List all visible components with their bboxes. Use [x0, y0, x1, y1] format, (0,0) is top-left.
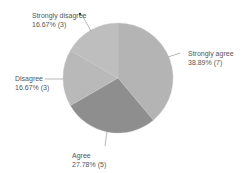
label-name: Agree — [72, 151, 106, 160]
label-name: Strongly agree — [188, 49, 234, 58]
leader-line-agree — [105, 131, 107, 146]
label-value: 16.67% (3) — [15, 83, 49, 92]
label-name: Disagree — [15, 74, 49, 83]
label-agree: Agree 27.78% (5) — [72, 151, 106, 169]
label-value: 27.78% (5) — [72, 160, 106, 169]
label-strongly-agree: Strongly agree 38.89% (7) — [188, 49, 234, 67]
pie-slices — [63, 23, 173, 133]
label-strongly-disagree: Strongly disagree 16.67% (3) — [32, 11, 86, 29]
label-name: Strongly disagree — [32, 11, 86, 20]
label-disagree: Disagree 16.67% (3) — [15, 74, 49, 92]
leader-line-strongly-agree — [168, 53, 180, 57]
label-value: 38.89% (7) — [188, 58, 234, 67]
label-value: 16.67% (3) — [32, 20, 86, 29]
